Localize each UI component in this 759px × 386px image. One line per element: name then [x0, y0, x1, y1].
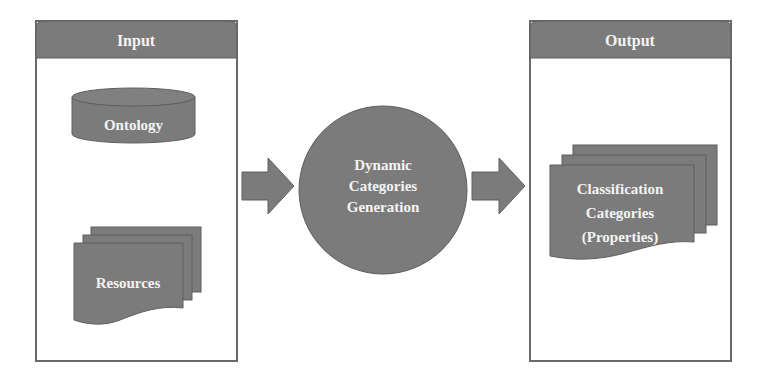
output-panel: Output Classification Categories (Proper…: [530, 21, 731, 361]
process-label-line-3: Generation: [347, 199, 420, 215]
process-circle: Dynamic Categories Generation: [299, 106, 467, 274]
arrow-right-icon: [242, 158, 294, 214]
classification-label-line-2: Categories: [586, 205, 654, 221]
arrow-right-icon: [472, 158, 525, 214]
ontology-cylinder: Ontology: [72, 88, 195, 143]
process-label-line-2: Categories: [349, 178, 417, 194]
process-label-line-1: Dynamic: [354, 157, 412, 173]
input-panel: Input Ontology Resources: [36, 21, 237, 361]
cylinder-top-icon: [72, 88, 195, 106]
input-panel-title: Input: [117, 32, 156, 50]
classification-label-line-3: (Properties): [582, 229, 658, 246]
output-panel-title: Output: [605, 32, 655, 50]
resources-label: Resources: [96, 275, 161, 291]
ontology-label: Ontology: [104, 117, 164, 133]
diagram-canvas: Input Ontology Resources Dynamic Categor…: [0, 0, 759, 386]
classification-documents: Classification Categories (Properties): [550, 145, 717, 259]
classification-label-line-1: Classification: [577, 181, 664, 197]
